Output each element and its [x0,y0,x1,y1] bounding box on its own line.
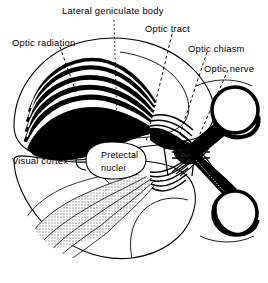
eye-upper [212,87,259,137]
label-pretectal-nuclei-line1: Pretectal [101,150,138,160]
label-optic-nerve: Optic nerve [204,63,254,74]
eye-lower [213,191,258,235]
label-optic-radiation: Optic radiation [12,37,75,48]
label-pretectal-nuclei-line2: nuclei [101,163,126,173]
label-optic-chiasm: Optic chiasm [188,43,245,54]
label-lateral-geniculate-body: Lateral geniculate body [62,5,164,16]
label-visual-cortex: Visual cortex [12,155,68,166]
visual-pathway-diagram: Lateral geniculate body Optic radiation … [0,0,268,283]
label-optic-tract: Optic tract [145,23,190,34]
